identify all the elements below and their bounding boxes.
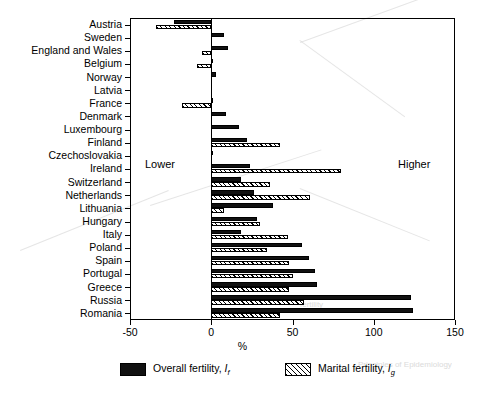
bar-if xyxy=(211,112,226,116)
chart-row xyxy=(130,44,455,57)
chart-row xyxy=(130,57,455,70)
chart-row xyxy=(130,84,455,97)
y-axis-label: Hungary xyxy=(82,215,122,228)
legend-label-marital-fertility: Marital fertility, Ig xyxy=(318,362,395,377)
chart-row xyxy=(130,294,455,307)
bar-if xyxy=(211,308,413,312)
chart-row xyxy=(130,136,455,149)
y-axis-label: Poland xyxy=(89,241,122,254)
bar-if xyxy=(211,151,213,155)
bar-if xyxy=(211,282,317,286)
y-axis-labels: AustriaSwedenEngland and WalesBelgiumNor… xyxy=(0,18,122,320)
y-axis-label: England and Wales xyxy=(31,44,122,57)
fertility-bar-chart: Principles of Epidemiology fertility Aus… xyxy=(0,0,485,400)
bar-if xyxy=(211,203,273,207)
y-axis-label: Greece xyxy=(88,281,122,294)
chart-row xyxy=(130,71,455,84)
bar-ig xyxy=(197,64,212,68)
legend-entry-marital-fertility: Marital fertility, Ig xyxy=(285,362,395,377)
chart-row xyxy=(130,215,455,228)
y-axis-label: Finland xyxy=(88,136,122,149)
y-axis-label: Denmark xyxy=(79,110,122,123)
chart-row xyxy=(130,254,455,267)
chart-row xyxy=(130,97,455,110)
chart-row xyxy=(130,267,455,280)
y-axis-label: Switzerland xyxy=(68,176,122,189)
y-axis-label: Latvia xyxy=(94,84,122,97)
legend-swatch-solid-icon xyxy=(120,363,146,376)
bar-ig xyxy=(211,287,289,291)
legend-entry-overall-fertility: Overall fertility, If xyxy=(120,362,230,377)
y-axis-label: Romania xyxy=(80,307,122,320)
x-axis-tick xyxy=(374,320,375,325)
bar-ig xyxy=(211,235,287,239)
x-axis-tick-label: 100 xyxy=(354,326,394,338)
x-axis-tick-label: 0 xyxy=(191,326,231,338)
bar-ig xyxy=(211,143,279,147)
bar-if xyxy=(211,190,253,194)
chart-row xyxy=(130,123,455,136)
bar-ig xyxy=(211,169,341,173)
chart-row xyxy=(130,176,455,189)
x-axis-tick xyxy=(130,320,131,325)
bar-if xyxy=(211,33,224,37)
chart-row xyxy=(130,281,455,294)
bar-if xyxy=(211,46,227,50)
bar-if xyxy=(211,230,240,234)
bar-ig xyxy=(211,261,289,265)
bar-if xyxy=(211,295,411,299)
chart-row xyxy=(130,110,455,123)
x-axis-tick-label: 150 xyxy=(435,326,475,338)
y-axis-label: Spain xyxy=(95,254,122,267)
y-axis-label: Norway xyxy=(86,71,122,84)
bar-ig xyxy=(211,300,304,304)
y-axis-label: Netherlands xyxy=(65,189,122,202)
x-axis-title: % xyxy=(0,340,485,352)
bar-if xyxy=(211,243,302,247)
bar-ig xyxy=(202,51,212,55)
bar-ig xyxy=(211,248,266,252)
bar-if xyxy=(211,72,216,76)
x-axis-tick xyxy=(455,320,456,325)
annotation-lower: Lower xyxy=(145,158,175,170)
y-axis-label: Ireland xyxy=(90,162,122,175)
bar-if xyxy=(211,256,309,260)
y-axis-label: Belgium xyxy=(84,57,122,70)
bar-ig xyxy=(211,222,260,226)
chart-row xyxy=(130,18,455,31)
bar-if xyxy=(211,177,240,181)
x-axis-tick xyxy=(211,320,212,325)
y-axis-label: Sweden xyxy=(84,31,122,44)
x-axis-tick-label: -50 xyxy=(110,326,150,338)
chart-row xyxy=(130,228,455,241)
bar-ig xyxy=(156,25,211,29)
y-axis-label: Italy xyxy=(103,228,122,241)
bar-if xyxy=(211,138,247,142)
y-axis-label: France xyxy=(89,97,122,110)
bar-if xyxy=(211,59,213,63)
bar-ig xyxy=(182,103,211,107)
bar-if xyxy=(211,164,250,168)
bar-ig xyxy=(211,182,270,186)
bar-ig xyxy=(211,274,292,278)
bar-if xyxy=(211,98,213,102)
legend: Overall fertility, If Marital fertility,… xyxy=(0,362,485,386)
y-axis-label: Russia xyxy=(90,294,122,307)
x-axis-tick-label: 50 xyxy=(273,326,313,338)
y-axis-label: Austria xyxy=(89,18,122,31)
y-axis-label: Lithuania xyxy=(79,202,122,215)
x-axis-tick xyxy=(293,320,294,325)
chart-row xyxy=(130,241,455,254)
chart-row xyxy=(130,307,455,320)
bar-ig xyxy=(211,208,224,212)
legend-label-overall-fertility: Overall fertility, If xyxy=(153,362,230,377)
legend-swatch-hatched-icon xyxy=(285,363,311,376)
bar-ig xyxy=(211,313,279,317)
annotation-higher: Higher xyxy=(398,158,430,170)
bar-if xyxy=(211,269,315,273)
chart-row xyxy=(130,202,455,215)
y-axis-label: Czechoslovakia xyxy=(48,149,122,162)
bar-if xyxy=(211,217,257,221)
y-axis-label: Portugal xyxy=(83,267,122,280)
bar-if xyxy=(174,20,211,24)
